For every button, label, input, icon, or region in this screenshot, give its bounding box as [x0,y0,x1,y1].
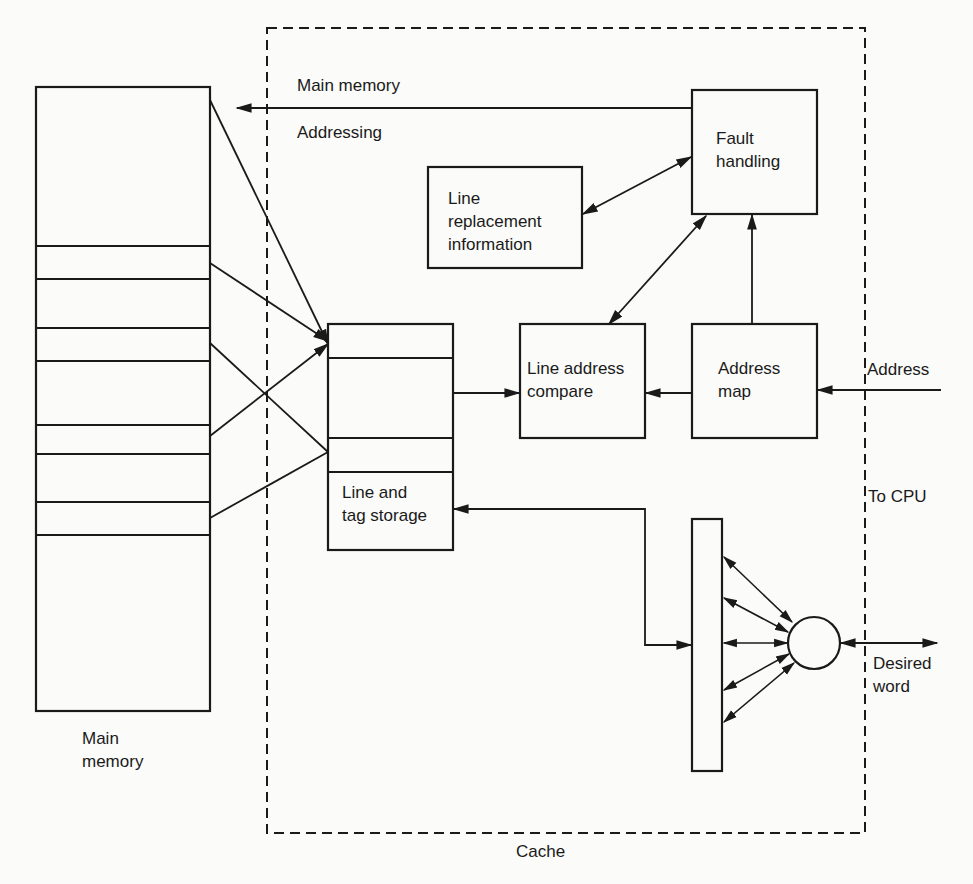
main-memory-column [36,87,210,711]
word-selector-circle [788,617,840,669]
address-input-label: Address [867,359,929,381]
line-replacement-label: Line replacement information [448,187,542,256]
address-map-label: Address map [718,357,780,403]
word-select-arrows [724,557,794,722]
main-memory-label: Main memory [82,727,143,773]
cache-diagram-canvas [0,0,973,884]
mux-to-storage-arrow [454,509,691,645]
main-memory-signal-label: Main memory [297,75,400,97]
cache-label: Cache [516,841,565,863]
to-cpu-label: To CPU [868,486,927,508]
fault-handling-label: Fault handling [716,127,780,173]
word-select-bar [692,519,722,771]
desired-word-label: Desired word [873,652,932,698]
replacement-fault-arrow [583,157,691,214]
addressing-signal-label: Addressing [297,122,382,144]
line-address-compare-label: Line address compare [527,357,624,403]
line-tag-storage-label: Line and tag storage [342,481,427,527]
compare-fault-arrow [609,216,706,324]
memory-to-cache-mapping-lines [210,100,328,518]
